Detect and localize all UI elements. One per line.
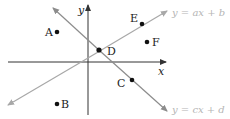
line-cx-d-label: y = cx + d (171, 104, 225, 115)
y-axis-label: y (77, 4, 85, 17)
point-b (55, 102, 60, 107)
point-f-label: F (152, 36, 160, 49)
point-c (130, 78, 135, 83)
line-ax-b-label: y = ax + b (171, 7, 225, 18)
point-c-label: C (117, 77, 125, 90)
point-d-label: D (107, 45, 116, 58)
line-cx-d-upper (53, 8, 100, 51)
point-e (140, 22, 145, 27)
line-ax-b-lower (8, 58, 88, 105)
point-f (145, 40, 150, 45)
point-b-label: B (61, 98, 69, 111)
x-axis-label: x (158, 65, 165, 78)
point-e-label: E (130, 12, 138, 25)
point-d (96, 47, 101, 52)
point-a (55, 30, 60, 35)
coordinate-diagram: x y y = ax + b y = cx + d A B C D E F (0, 0, 230, 119)
point-a-label: A (44, 26, 54, 39)
